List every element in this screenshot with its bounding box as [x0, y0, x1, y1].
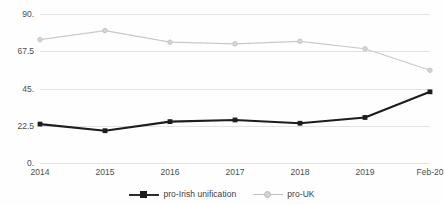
data-point[interactable]	[168, 40, 172, 44]
gridline	[40, 163, 430, 164]
legend-item-pro-uk[interactable]: pro-UK	[253, 189, 314, 199]
legend-marker-dark-icon	[129, 190, 159, 199]
x-tick-label: 2018	[291, 167, 310, 177]
plot-area	[40, 14, 430, 163]
series-line-pro-uk	[40, 31, 430, 71]
data-point[interactable]	[233, 42, 237, 46]
x-tick-label: 2019	[356, 167, 375, 177]
data-point[interactable]	[103, 28, 107, 32]
x-tick-label: 2016	[161, 167, 180, 177]
y-tick-label: 22.5	[17, 121, 34, 131]
series-layer	[40, 14, 430, 163]
x-tick-label: 2015	[96, 167, 115, 177]
data-point[interactable]	[363, 115, 368, 120]
data-point[interactable]	[298, 121, 303, 126]
legend-label-pro-uk: pro-UK	[287, 189, 314, 199]
data-point[interactable]	[38, 122, 43, 127]
legend-item-pro-irish-unification[interactable]: pro-Irish unification	[129, 189, 236, 199]
legend-label-pro-irish-unification: pro-Irish unification	[163, 189, 236, 199]
x-tick-label: Feb-20	[417, 167, 444, 177]
x-axis-labels: 201420152016201720182019Feb-20	[40, 167, 430, 181]
series-line-pro-irish-unification	[40, 92, 430, 131]
y-tick-label: 45.	[22, 84, 34, 94]
y-tick-label: 67.5	[17, 46, 34, 56]
data-point[interactable]	[168, 119, 173, 124]
data-point[interactable]	[428, 89, 433, 94]
legend-marker-light-icon	[253, 190, 283, 199]
line-chart: 0.22.545.67.590. 20142015201620172018201…	[0, 0, 444, 205]
data-point[interactable]	[38, 37, 42, 41]
data-point[interactable]	[428, 68, 432, 72]
data-point[interactable]	[298, 39, 302, 43]
data-point[interactable]	[363, 47, 367, 51]
x-tick-label: 2014	[31, 167, 50, 177]
x-tick-label: 2017	[226, 167, 245, 177]
data-point[interactable]	[233, 118, 238, 123]
y-tick-label: 90.	[22, 9, 34, 19]
data-point[interactable]	[103, 128, 108, 133]
y-axis-labels: 0.22.545.67.590.	[0, 14, 36, 163]
chart-legend: pro-Irish unification pro-UK	[0, 186, 444, 202]
